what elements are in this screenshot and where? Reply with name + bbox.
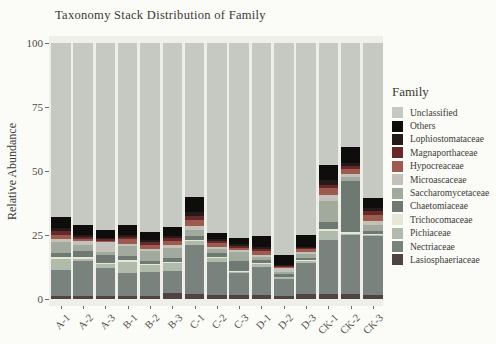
bar-segment-lasiosphaeriaceae bbox=[51, 296, 71, 299]
legend-label: Nectriaceae bbox=[410, 242, 455, 252]
bar-segment-nectriaceae bbox=[73, 261, 93, 297]
bar-segment-lasiosphaeriaceae bbox=[73, 296, 93, 299]
x-tick-mark bbox=[83, 306, 84, 309]
bar-segment-unclassified bbox=[341, 43, 361, 147]
bar-segment-others bbox=[140, 232, 160, 240]
y-tick-mark bbox=[45, 107, 49, 108]
bar-C-1 bbox=[185, 43, 205, 299]
bar-C-3 bbox=[229, 43, 249, 299]
legend-item: Trichocomaceae bbox=[392, 213, 494, 226]
bar-segment-chaetomiaceae bbox=[229, 261, 249, 271]
bar-segment-others bbox=[73, 225, 93, 235]
y-tick-label: 0 bbox=[13, 294, 43, 304]
bar-segment-microascaceae bbox=[96, 242, 116, 251]
bar-segment-unclassified bbox=[229, 43, 249, 238]
x-tick-label: CK-1 bbox=[316, 312, 340, 336]
x-tick-mark bbox=[105, 306, 106, 309]
bar-segment-saccharomycetaceae bbox=[319, 201, 339, 221]
bar-segment-nectriaceae bbox=[140, 272, 160, 296]
x-tick-label: D-2 bbox=[276, 312, 295, 331]
bar-B-2 bbox=[140, 43, 160, 299]
bar-segment-nectriaceae bbox=[118, 273, 138, 296]
x-tick-mark bbox=[373, 306, 374, 309]
bar-segment-lasiosphaeriaceae bbox=[341, 294, 361, 299]
x-tick-mark bbox=[61, 306, 62, 309]
bar-segment-pichiaceae bbox=[319, 231, 339, 240]
bar-segment-lasiosphaeriaceae bbox=[118, 296, 138, 299]
y-tick-mark bbox=[45, 235, 49, 236]
legend-label: Trichocomaceae bbox=[410, 215, 472, 225]
plot-panel bbox=[49, 36, 383, 306]
legend-swatch bbox=[392, 188, 403, 199]
bar-segment-others bbox=[341, 147, 361, 163]
bar-B-3 bbox=[163, 43, 183, 299]
legend-swatch bbox=[392, 254, 403, 265]
bar-D-1 bbox=[252, 43, 272, 299]
y-tick-label: 50 bbox=[13, 166, 43, 176]
x-tick-mark bbox=[172, 306, 173, 309]
chart-canvas: Taxonomy Stack Distribution of Family Re… bbox=[0, 0, 496, 344]
legend-title: Family bbox=[392, 84, 494, 100]
legend-swatch bbox=[392, 161, 403, 172]
bar-CK-2 bbox=[341, 43, 361, 299]
x-tick-mark bbox=[239, 306, 240, 309]
bar-segment-unclassified bbox=[185, 43, 205, 197]
bar-segment-unclassified bbox=[319, 43, 339, 165]
bar-segment-lasiosphaeriaceae bbox=[363, 295, 383, 299]
legend-item: Chaetomiaceae bbox=[392, 200, 494, 213]
bar-segment-saccharomycetaceae bbox=[51, 242, 71, 254]
x-tick-label: CK-3 bbox=[360, 312, 384, 336]
x-tick-label: C-2 bbox=[210, 312, 229, 331]
bar-segment-saccharomycetaceae bbox=[140, 251, 160, 261]
x-tick-mark bbox=[306, 306, 307, 309]
legend-label: Chaetomiaceae bbox=[410, 201, 468, 211]
x-tick-label: CK-2 bbox=[338, 312, 362, 336]
bar-segment-chaetomiaceae bbox=[73, 251, 93, 258]
bar-segment-chaetomiaceae bbox=[319, 222, 339, 230]
bar-segment-others bbox=[274, 255, 294, 265]
bar-segment-unclassified bbox=[363, 43, 383, 198]
bar-segment-lasiosphaeriaceae bbox=[140, 296, 160, 299]
legend-swatch bbox=[392, 147, 403, 158]
x-tick-label: C-3 bbox=[232, 312, 251, 331]
legend: Family UnclassifiedOthersLophiostomatace… bbox=[392, 84, 494, 267]
y-tick-label: 100 bbox=[13, 38, 43, 48]
legend-item: Others bbox=[392, 119, 494, 132]
bar-segment-lasiosphaeriaceae bbox=[274, 296, 294, 299]
bar-segment-nectriaceae bbox=[96, 268, 116, 296]
bar-CK-3 bbox=[363, 43, 383, 299]
bar-segment-nectriaceae bbox=[207, 262, 227, 295]
y-tick-label: 75 bbox=[13, 102, 43, 112]
bar-segment-unclassified bbox=[118, 43, 138, 225]
bar-segment-lasiosphaeriaceae bbox=[185, 294, 205, 299]
bar-segment-others bbox=[296, 235, 316, 247]
legend-label: Saccharomycetaceae bbox=[410, 188, 489, 198]
legend-label: Unclassified bbox=[410, 108, 458, 118]
bar-segment-lasiosphaeriaceae bbox=[319, 294, 339, 299]
bar-segment-others bbox=[252, 236, 272, 246]
chart-title: Taxonomy Stack Distribution of Family bbox=[55, 8, 266, 23]
bar-segment-lasiosphaeriaceae bbox=[229, 295, 249, 299]
bar-segment-pichiaceae bbox=[163, 263, 183, 271]
bar-CK-1 bbox=[319, 43, 339, 299]
bar-C-2 bbox=[207, 43, 227, 299]
bar-segment-saccharomycetaceae bbox=[163, 248, 183, 258]
bar-segment-pichiaceae bbox=[118, 262, 138, 273]
bar-segment-nectriaceae bbox=[363, 236, 383, 295]
legend-swatch bbox=[392, 107, 403, 118]
bar-segment-others bbox=[96, 230, 116, 238]
legend-label: Lophiostomataceae bbox=[410, 134, 484, 144]
bar-segment-lasiosphaeriaceae bbox=[96, 296, 116, 299]
x-tick-label: D-1 bbox=[254, 312, 273, 331]
bar-segment-chaetomiaceae bbox=[96, 255, 116, 263]
bar-segment-saccharomycetaceae bbox=[118, 246, 138, 256]
legend-item: Pichiaceae bbox=[392, 227, 494, 240]
bar-segment-saccharomycetaceae bbox=[229, 252, 249, 261]
x-tick-label: B-1 bbox=[121, 312, 140, 331]
bar-segment-nectriaceae bbox=[341, 235, 361, 294]
bar-segment-unclassified bbox=[274, 43, 294, 255]
x-tick-label: C-1 bbox=[187, 312, 206, 331]
y-tick-mark bbox=[45, 299, 49, 300]
legend-item: Microascaceae bbox=[392, 173, 494, 186]
bar-segment-nectriaceae bbox=[296, 263, 316, 294]
